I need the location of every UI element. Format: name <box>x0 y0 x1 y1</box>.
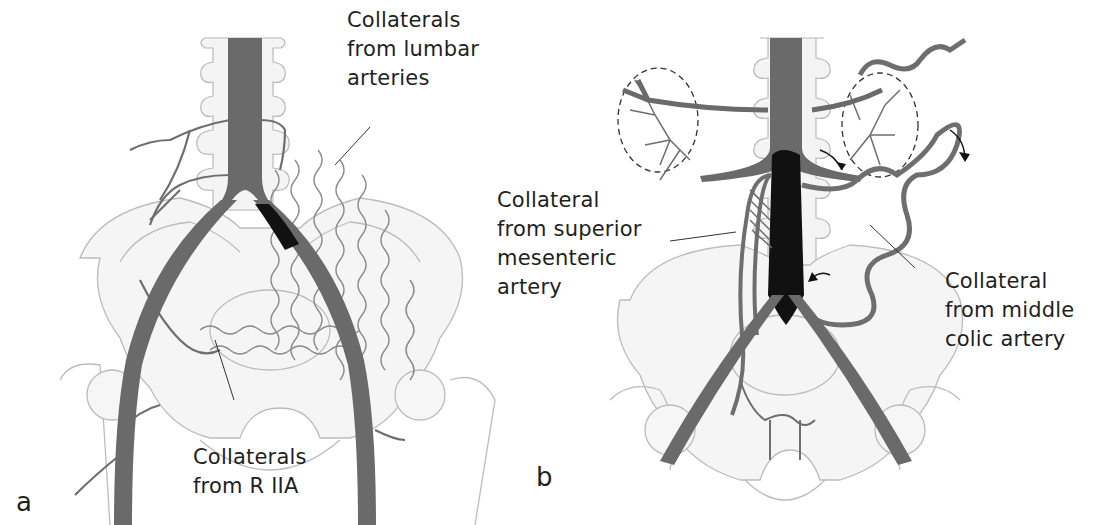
label-collaterals-r-iia: Collaterals from R IIA <box>193 443 307 501</box>
label-line: arteries <box>347 64 479 93</box>
label-line: Collateral <box>945 267 1074 296</box>
label-line: mesenteric <box>497 244 642 273</box>
panel-letter-a: a <box>16 487 32 517</box>
renal-arteries <box>623 80 882 110</box>
label-line: from R IIA <box>193 472 307 501</box>
leader-line-sma <box>670 232 736 241</box>
label-line: artery <box>497 273 642 302</box>
label-collateral-middle-colic-artery: Collateral from middle colic artery <box>945 267 1074 354</box>
panel-letter-b: b <box>536 462 553 492</box>
aorta <box>222 38 268 200</box>
label-line: Collaterals <box>193 443 307 472</box>
leader-line-lumbar <box>335 127 370 165</box>
label-line: from lumbar <box>347 35 479 64</box>
label-line: from middle <box>945 296 1074 325</box>
label-collateral-superior-mesenteric-artery: Collateral from superior mesenteric arte… <box>497 186 642 302</box>
panel-a: Collaterals from lumbar arteries Collate… <box>0 0 540 525</box>
panel-b: Collateral from superior mesenteric arte… <box>540 0 1096 525</box>
label-line: Collaterals <box>347 6 479 35</box>
label-collaterals-lumbar-arteries: Collaterals from lumbar arteries <box>347 6 479 93</box>
label-line: from superior <box>497 215 642 244</box>
label-line: colic artery <box>945 325 1074 354</box>
label-line: Collateral <box>497 186 642 215</box>
